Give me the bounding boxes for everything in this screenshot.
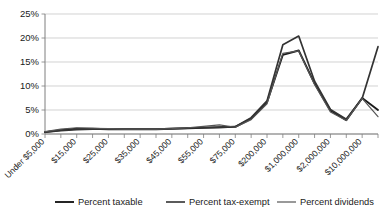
series-group xyxy=(45,36,378,132)
y-axis-label: 15% xyxy=(20,56,40,67)
x-axis-label: $25,000 xyxy=(81,136,110,165)
legend-group: Percent taxablePercent tax-exemptPercent… xyxy=(55,197,374,207)
y-axis-label: 5% xyxy=(25,104,39,115)
x-axis-label: Under $5,000 xyxy=(3,136,47,180)
x-axis-label: $35,000 xyxy=(113,136,142,165)
y-axis-group: 0%5%10%15%20%25% xyxy=(20,8,45,139)
series-line-0 xyxy=(45,50,378,132)
chart-canvas: 0%5%10%15%20%25% Under $5,000$15,000$25,… xyxy=(0,0,384,217)
legend-label-2: Percent dividends xyxy=(300,197,374,207)
x-axis-label: $55,000 xyxy=(176,136,205,165)
x-axis-label: $45,000 xyxy=(144,136,173,165)
y-axis-label: 25% xyxy=(20,8,40,19)
x-axis-label: $200,000 xyxy=(236,136,269,169)
y-axis-label: 10% xyxy=(20,80,40,91)
y-axis-label: 20% xyxy=(20,32,40,43)
gridlines-group xyxy=(45,14,378,134)
series-line-1 xyxy=(45,36,378,132)
x-axis-group: Under $5,000$15,000$25,000$35,000$45,000… xyxy=(3,134,378,180)
line-chart: 0%5%10%15%20%25% Under $5,000$15,000$25,… xyxy=(0,0,384,217)
x-axis-label: $75,000 xyxy=(208,136,237,165)
x-axis-label: $15,000 xyxy=(49,136,78,165)
legend-label-0: Percent taxable xyxy=(78,197,143,207)
series-line-2 xyxy=(45,51,378,132)
legend-label-1: Percent tax-exempt xyxy=(189,197,270,207)
